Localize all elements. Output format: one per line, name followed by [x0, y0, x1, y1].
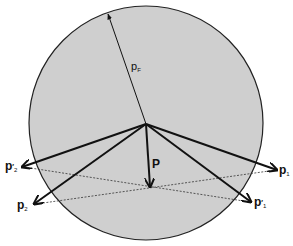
label-p2: p2	[17, 199, 28, 211]
label-pF-sub: F	[137, 67, 141, 73]
label-p2-prime: p′2	[5, 160, 17, 172]
label-p2-prime-sub: 2	[14, 167, 17, 173]
label-P-main: P	[152, 157, 160, 171]
label-p1-prime-sub: 1	[263, 203, 266, 209]
fermi-sphere-diagram	[0, 0, 293, 246]
label-p2-sub: 2	[24, 206, 27, 212]
label-pF: pF	[131, 61, 141, 72]
label-p1: p1	[279, 164, 290, 176]
label-p1-prime: p′1	[254, 196, 266, 208]
label-p1-sub: 1	[286, 171, 289, 177]
label-P: P	[152, 158, 160, 170]
